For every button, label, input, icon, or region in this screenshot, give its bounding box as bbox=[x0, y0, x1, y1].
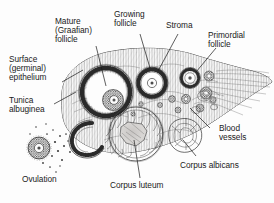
cumulus-oophorus bbox=[103, 90, 124, 111]
label-corpus-luteum: Corpus luteum bbox=[110, 180, 163, 190]
label-tunica-albuginea: Tunica albuginea bbox=[9, 95, 45, 114]
label-ovulation: Ovulation bbox=[22, 174, 57, 184]
label-primordial-follicle-line2: follicle bbox=[208, 39, 231, 49]
label-primordial-follicle: Primordial follicle bbox=[208, 30, 245, 49]
label-blood-vessels: Blood vessels bbox=[219, 123, 246, 142]
label-blood-vessels-line2: vessels bbox=[219, 132, 246, 142]
released-oocyte bbox=[27, 136, 52, 161]
label-growing-follicle-line2: follicle bbox=[114, 18, 137, 28]
label-stroma: Stroma bbox=[166, 20, 193, 30]
ovary-diagram: Surface (germinal) epithelium Mature (Gr… bbox=[0, 0, 274, 203]
label-tunica-albuginea-line2: albuginea bbox=[9, 104, 45, 114]
label-corpus-albicans: Corpus albicans bbox=[180, 160, 239, 170]
label-surface-epithelium-line3: epithelium bbox=[9, 72, 46, 82]
label-growing-follicle: Growing follicle bbox=[114, 9, 145, 28]
label-mature-follicle-line3: follicle bbox=[55, 34, 78, 44]
label-surface-epithelium: Surface (germinal) epithelium bbox=[9, 54, 46, 82]
label-mature-follicle: Mature (Graafian) follicle bbox=[55, 16, 92, 44]
